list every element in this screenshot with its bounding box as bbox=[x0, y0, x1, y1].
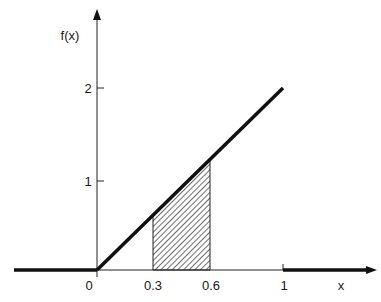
x-tick-label-0.3: 0.3 bbox=[144, 278, 162, 293]
y-tick-label-2: 2 bbox=[84, 81, 91, 96]
x-axis-label: x bbox=[338, 278, 345, 293]
x-tick-label-0.6: 0.6 bbox=[202, 278, 220, 293]
x-tick-label-1: 1 bbox=[280, 278, 287, 293]
y-axis-label: f(x) bbox=[61, 28, 80, 43]
y-tick-label-1: 1 bbox=[84, 174, 91, 189]
shaded-probability-region bbox=[153, 158, 210, 270]
chart-canvas: f(x) 2 1 0 0.3 0.6 1 x bbox=[0, 0, 381, 302]
x-tick-label-0: 0 bbox=[85, 278, 92, 293]
y-axis-arrow-icon bbox=[93, 9, 101, 20]
